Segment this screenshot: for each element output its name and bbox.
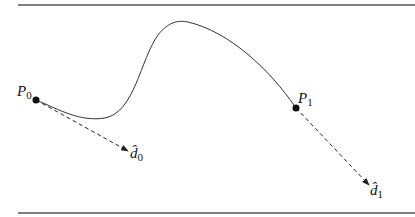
- curve-diagram: P0 P1 d̂0 d̂1: [0, 0, 415, 217]
- tangent-d1: [296, 108, 369, 185]
- point-p0: [33, 97, 40, 104]
- label-p0: P0: [16, 83, 32, 101]
- curve: [36, 21, 296, 118]
- label-p1: P1: [297, 90, 313, 108]
- tangent-d0: [36, 100, 128, 151]
- label-d0: d̂0: [130, 145, 144, 163]
- label-d1: d̂1: [370, 182, 383, 200]
